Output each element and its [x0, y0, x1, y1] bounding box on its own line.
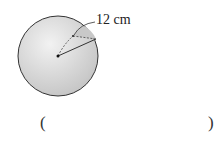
- center-point: [57, 55, 60, 58]
- answer-close-paren: ): [208, 113, 214, 133]
- arc-point: [72, 35, 74, 37]
- radius-label: 12 cm: [96, 12, 131, 28]
- answer-open-paren: (: [40, 113, 46, 133]
